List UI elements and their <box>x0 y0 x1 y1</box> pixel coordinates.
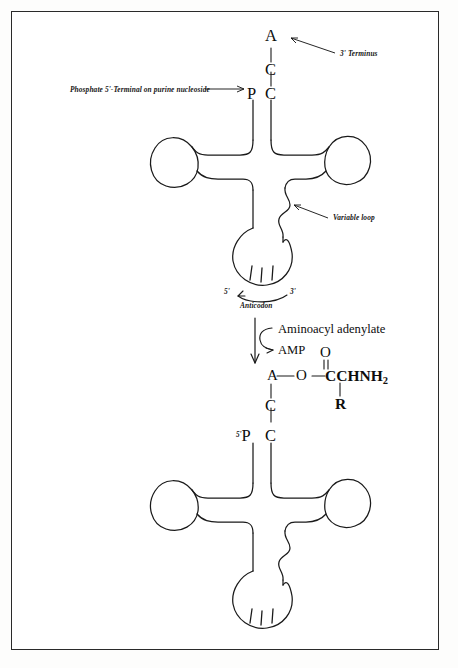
anticodon-tick-3-top <box>272 266 273 280</box>
right-arm-upper-bottom <box>271 483 329 498</box>
anticodon-tick-3-bottom <box>272 609 273 623</box>
right-arm-lower-bottom <box>285 514 326 531</box>
left-arm-upper-bottom <box>192 483 253 498</box>
reaction-hook-arrowhead <box>266 348 273 353</box>
acceptor-base-a-bottom: A <box>267 368 278 383</box>
five-prime-label-top: 5' <box>224 288 230 295</box>
variable-loop-label: Variable loop <box>333 214 375 221</box>
variable-loop-leader <box>294 205 328 218</box>
figure-page: A C C P 3' Terminus Phosphate 5'-Termina… <box>0 0 458 668</box>
aminoacyl-adenylate-label: Aminoacyl adenylate <box>278 323 385 336</box>
phosphate-terminal-label: Phosphate 5'-Terminal on purine nucleosi… <box>70 86 210 93</box>
acceptor-base-c1-top: C <box>265 62 276 79</box>
anticodon-tick-2-bottom <box>261 611 262 625</box>
acceptor-base-c2-bottom: C <box>265 428 276 445</box>
anticodon-tick-1-top <box>250 266 252 280</box>
phosphate-terminal-leader <box>205 86 244 92</box>
anticodon-label: Anticodon <box>240 302 273 309</box>
three-prime-terminus-leader <box>291 38 335 53</box>
side-chain-r-label: R <box>335 396 346 412</box>
reaction-curved-hook <box>260 328 273 350</box>
left-arm-lower-top <box>197 171 253 190</box>
right-arm-lower-top <box>285 171 326 188</box>
aminoacyl-chain-label: CCHNH <box>325 367 383 384</box>
left-arm-lower-bottom <box>197 514 253 533</box>
variable-loop-bottom <box>279 531 290 580</box>
variable-loop-top <box>279 188 290 237</box>
three-prime-terminus-label: 3' Terminus <box>340 50 378 57</box>
carbonyl-oxygen-label: O <box>320 345 331 360</box>
right-loop-top <box>325 136 371 184</box>
left-arm-upper-top <box>192 140 253 155</box>
phosphate-letter-bottom: P <box>242 426 251 445</box>
three-prime-label-top: 3' <box>290 288 296 295</box>
right-arm-upper-top <box>271 140 329 155</box>
anticodon-tick-2-top <box>261 268 262 282</box>
left-loop-top <box>151 138 199 188</box>
anticodon-arrowhead-top <box>238 291 245 296</box>
ester-oxygen-label: O <box>296 368 307 383</box>
aminoacyl-chain-group: CCHNH2 <box>325 368 388 386</box>
acceptor-base-c1-bottom: C <box>265 398 276 415</box>
acceptor-base-c2-top: C <box>265 86 276 103</box>
right-loop-bottom <box>325 479 371 527</box>
reaction-arrow-group <box>251 318 273 363</box>
phosphate-group-bottom: 5'P <box>236 428 251 445</box>
left-loop-bottom <box>151 481 199 531</box>
anticodon-tick-1-bottom <box>250 609 252 623</box>
phosphate-letter-top: P <box>247 86 256 103</box>
trna-diagram-svg <box>0 0 458 668</box>
aminoacyl-chain-subscript: 2 <box>383 375 388 386</box>
amp-label: AMP <box>278 344 305 357</box>
acceptor-base-a-top: A <box>265 28 277 45</box>
